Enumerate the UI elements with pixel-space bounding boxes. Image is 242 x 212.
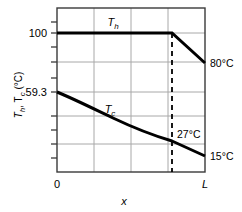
- x-tick-label-0: 0: [54, 178, 60, 190]
- x-tick-label-L: L: [202, 178, 208, 190]
- svg-text:Th, Tc (°C): Th, Tc (°C): [13, 72, 27, 119]
- y-axis-title: Th, Tc (°C): [13, 72, 27, 119]
- hot-curve-label-sub: h: [114, 22, 119, 31]
- y-tick-label-59-3: 59.3: [26, 86, 47, 98]
- y-axis-title-sep: , T: [13, 96, 24, 107]
- cold-curve-label-sub: c: [111, 109, 115, 118]
- y-axis-ticks: [51, 22, 57, 158]
- y-tick-label-100: 100: [29, 27, 47, 39]
- outlet-hot-temperature-label: 80°C: [210, 57, 234, 69]
- y-axis-title-unit: (°C): [13, 72, 24, 93]
- x-axis-title: x: [120, 195, 127, 207]
- outlet-cold-temperature-label: 15°C: [210, 150, 234, 162]
- thermal-profile-chart: 100 59.3 0 L x Th, Tc (°C) Th Tc 80°C 15…: [0, 0, 242, 212]
- interface-temperature-label: 27°C: [177, 128, 201, 140]
- chart-svg: 100 59.3 0 L x Th, Tc (°C) Th Tc 80°C 15…: [0, 0, 242, 212]
